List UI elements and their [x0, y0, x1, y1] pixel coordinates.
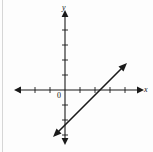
x-axis-label: x [144, 86, 148, 94]
graph-canvas [0, 0, 153, 152]
x-axis-right-arrow-icon [137, 87, 144, 94]
y-axis-label: y [62, 4, 66, 12]
y-axis-down-arrow-icon [62, 138, 69, 145]
plotted-line [56, 66, 124, 134]
coordinate-graph-figure: y x 0 [0, 0, 153, 152]
origin-label: 0 [57, 92, 61, 100]
